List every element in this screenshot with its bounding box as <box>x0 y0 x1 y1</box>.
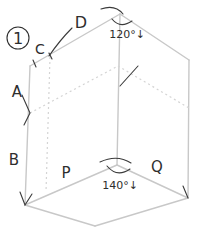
label-p: P <box>61 164 70 182</box>
visible-edges <box>25 14 189 226</box>
edge-bottom-right-outer <box>95 198 188 226</box>
angle-arc-top-outer <box>101 7 123 14</box>
edge-right-vertical <box>188 60 189 198</box>
angle-label-top: 120°↓ <box>109 28 145 41</box>
box-diagram: 1 C D A B P Q 120°↓ 140°↓ <box>0 0 199 228</box>
label-b: B <box>9 151 19 169</box>
hidden-edge-back-vertical <box>46 57 50 192</box>
label-d: D <box>75 13 87 32</box>
hidden-edge-mid-right <box>118 66 189 108</box>
label-a: A <box>12 83 23 101</box>
angle-arc-bottom-outer <box>100 158 131 163</box>
label-q: Q <box>151 158 163 176</box>
hidden-edge-mid-left <box>30 66 118 113</box>
label-c: C <box>35 41 45 57</box>
figure-number: 1 <box>13 29 23 48</box>
edge-bottom-left-outer <box>25 205 95 226</box>
arc-c-d <box>49 28 72 56</box>
angle-label-bottom: 140°↓ <box>102 179 138 192</box>
labels: 1 C D A B P Q 120°↓ 140°↓ <box>7 13 163 192</box>
edge-left-vertical <box>25 66 30 205</box>
hidden-edges <box>30 57 189 192</box>
